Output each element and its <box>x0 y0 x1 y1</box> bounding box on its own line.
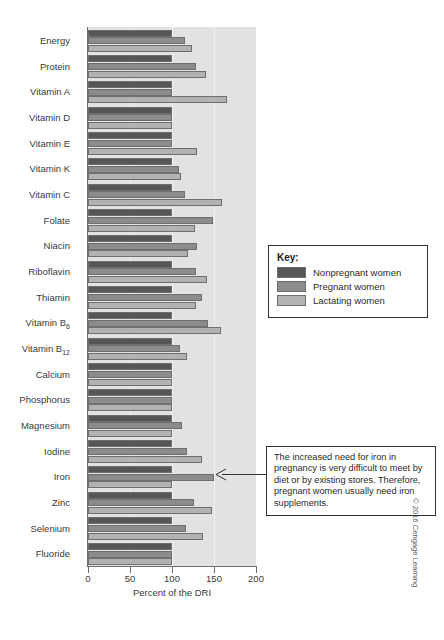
category-label: Thiamin <box>0 292 70 303</box>
bar <box>88 507 212 514</box>
bar <box>88 276 207 283</box>
bar <box>88 363 172 370</box>
bar <box>88 543 172 550</box>
bar <box>88 492 172 499</box>
bar <box>88 456 202 463</box>
bar <box>88 184 172 191</box>
bar <box>88 148 197 155</box>
bar <box>88 173 181 180</box>
category-label: Vitamin B12 <box>0 343 70 356</box>
x-axis-label: Percent of the DRI <box>88 587 256 598</box>
category-label: Calcium <box>0 369 70 380</box>
bar <box>88 286 172 293</box>
legend-swatch <box>277 281 306 292</box>
bar <box>88 525 186 532</box>
bar <box>88 302 196 309</box>
bar <box>88 217 213 224</box>
bar <box>88 122 172 129</box>
category-label: Vitamin K <box>0 163 70 174</box>
bar <box>88 397 172 404</box>
bar <box>88 114 172 121</box>
bar <box>88 320 208 327</box>
bar <box>88 533 203 540</box>
bar <box>88 379 172 386</box>
annotation-leader-line <box>222 474 268 475</box>
legend-label: Nonpregnant women <box>313 267 401 278</box>
bar <box>88 422 182 429</box>
category-label: Phosphorus <box>0 394 70 405</box>
legend-entry: Lactating women <box>277 295 419 306</box>
bar <box>88 89 172 96</box>
bar <box>88 430 172 437</box>
bar <box>88 371 172 378</box>
x-axis-tick-label: 100 <box>157 573 187 584</box>
category-label: Protein <box>0 61 70 72</box>
legend-label: Lactating women <box>313 295 385 306</box>
category-label: Selenium <box>0 523 70 534</box>
bar <box>88 107 172 114</box>
bar <box>88 37 185 44</box>
gridline <box>214 27 215 566</box>
bar <box>88 45 192 52</box>
x-axis-tick-label: 150 <box>199 573 229 584</box>
bar <box>88 558 172 565</box>
bar <box>88 191 185 198</box>
bar <box>88 209 172 216</box>
legend-entry: Nonpregnant women <box>277 267 419 278</box>
category-label: Riboflavin <box>0 266 70 277</box>
bar <box>88 63 196 70</box>
bar <box>88 225 195 232</box>
bar <box>88 96 227 103</box>
category-label: Folate <box>0 215 70 226</box>
bar <box>88 404 172 411</box>
x-axis-tick-label: 200 <box>241 573 271 584</box>
bar <box>88 466 172 473</box>
legend-swatch <box>277 295 306 306</box>
legend-swatch <box>277 267 306 278</box>
bar <box>88 268 196 275</box>
bar <box>88 345 180 352</box>
x-axis-tick-label: 0 <box>73 573 103 584</box>
category-label: Iodine <box>0 446 70 457</box>
legend-label: Pregnant women <box>313 281 385 292</box>
bar <box>88 499 194 506</box>
annotation-arrow-icon <box>215 468 227 481</box>
bar <box>88 235 172 242</box>
bar <box>88 199 222 206</box>
bar <box>88 71 206 78</box>
legend: Key: Nonpregnant womenPregnant womenLact… <box>268 245 428 318</box>
bar <box>88 389 172 396</box>
bar <box>88 294 202 301</box>
category-label: Fluoride <box>0 548 70 559</box>
bar <box>88 30 172 37</box>
category-label: Iron <box>0 471 70 482</box>
bar <box>88 440 172 447</box>
bar <box>88 158 172 165</box>
bar <box>88 474 214 481</box>
category-label: Vitamin A <box>0 86 70 97</box>
bar <box>88 448 187 455</box>
legend-entry: Pregnant women <box>277 281 419 292</box>
legend-entries: Nonpregnant womenPregnant womenLactating… <box>277 267 419 306</box>
bar <box>88 353 187 360</box>
bar <box>88 81 172 88</box>
bar <box>88 551 172 558</box>
bar <box>88 327 221 334</box>
bar <box>88 166 179 173</box>
category-label: Vitamin E <box>0 138 70 149</box>
bar <box>88 140 172 147</box>
copyright-credit: © 2016 Cengage Learning <box>411 498 420 587</box>
x-axis-tick-label: 50 <box>115 573 145 584</box>
bar <box>88 55 172 62</box>
category-label: Niacin <box>0 240 70 251</box>
category-label: Magnesium <box>0 420 70 431</box>
chart-figure: 050100150200 Percent of the DRI EnergyPr… <box>0 0 444 640</box>
bar <box>88 517 172 524</box>
bar <box>88 243 197 250</box>
bar <box>88 250 188 257</box>
bar <box>88 415 172 422</box>
category-label: Energy <box>0 35 70 46</box>
bar <box>88 481 172 488</box>
category-label: Zinc <box>0 497 70 508</box>
bar <box>88 132 172 139</box>
